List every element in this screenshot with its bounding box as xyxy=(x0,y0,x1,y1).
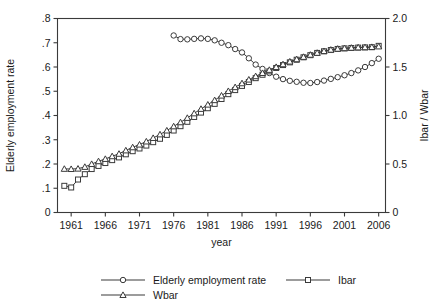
left-tick-label: .3 xyxy=(42,134,51,146)
data-point xyxy=(376,56,381,61)
x-tick-label: 1991 xyxy=(264,219,288,231)
x-axis-title: year xyxy=(211,236,232,248)
right-tick-label: 1.0 xyxy=(393,109,408,121)
data-point xyxy=(287,78,292,83)
left-tick-label: 0 xyxy=(45,206,51,218)
data-point xyxy=(185,37,190,42)
data-point xyxy=(253,62,258,67)
legend-label: Wbar xyxy=(153,289,179,301)
data-point xyxy=(301,80,306,85)
legend-label: Ibar xyxy=(338,274,357,286)
data-point xyxy=(171,33,176,38)
data-point xyxy=(69,185,74,190)
x-tick-label: 2001 xyxy=(333,219,357,231)
data-point xyxy=(349,70,354,75)
data-point xyxy=(294,79,299,84)
data-point xyxy=(191,36,196,41)
legend-label: Elderly employment rate xyxy=(153,274,266,286)
right-tick-label: 0 xyxy=(393,206,399,218)
data-point xyxy=(76,177,81,182)
data-point xyxy=(280,76,285,81)
right-tick-label: 2.0 xyxy=(393,12,408,24)
data-point xyxy=(232,46,237,51)
left-tick-label: .2 xyxy=(42,158,51,170)
right-tick-label: 0.5 xyxy=(393,158,408,170)
x-tick-label: 1981 xyxy=(196,219,220,231)
left-tick-label: .4 xyxy=(42,109,51,121)
legend-marker-square-icon xyxy=(306,278,311,283)
data-point xyxy=(362,64,367,69)
data-point xyxy=(205,36,210,41)
left-tick-label: .8 xyxy=(42,12,51,24)
data-point xyxy=(369,60,374,65)
data-point xyxy=(226,42,231,47)
legend-marker-circle-icon xyxy=(120,277,125,282)
data-point xyxy=(198,36,203,41)
data-point xyxy=(314,79,319,84)
x-tick-label: 1961 xyxy=(59,219,83,231)
chart-figure: 0.1.2.3.4.5.6.7.8 00.51.01.52.0 19611966… xyxy=(0,0,442,306)
left-tick-label: .6 xyxy=(42,61,51,73)
data-point xyxy=(239,50,244,55)
data-point xyxy=(62,183,67,188)
data-point xyxy=(273,74,278,79)
data-point xyxy=(355,68,360,73)
data-point xyxy=(246,56,251,61)
y-axis-title: Elderly employment rate xyxy=(4,59,16,172)
x-tick-label: 2006 xyxy=(367,219,391,231)
left-tick-label: .1 xyxy=(42,182,51,194)
x-tick-label: 1966 xyxy=(94,219,118,231)
data-point xyxy=(178,36,183,41)
x-tick-label: 1996 xyxy=(299,219,323,231)
data-point xyxy=(328,76,333,81)
left-tick-label: .7 xyxy=(42,37,51,49)
data-point xyxy=(342,73,347,78)
data-point xyxy=(82,172,87,177)
left-tick-label: .5 xyxy=(42,85,51,97)
data-point xyxy=(335,74,340,79)
x-tick-label: 1986 xyxy=(230,219,254,231)
right-tick-label: 1.5 xyxy=(393,61,408,73)
y2-axis-title: Ibar / Wbar xyxy=(418,89,430,141)
x-tick-label: 1976 xyxy=(162,219,186,231)
data-point xyxy=(212,38,217,43)
data-point xyxy=(321,78,326,83)
elderly-employment-chart: 0.1.2.3.4.5.6.7.8 00.51.01.52.0 19611966… xyxy=(0,0,442,306)
data-point xyxy=(219,40,224,45)
data-point xyxy=(89,167,94,172)
x-tick-label: 1971 xyxy=(128,219,152,231)
data-point xyxy=(308,80,313,85)
